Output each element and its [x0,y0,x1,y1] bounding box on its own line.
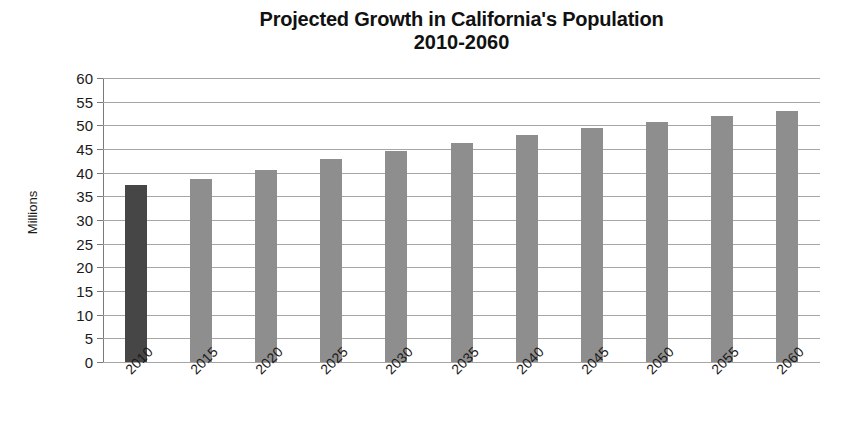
y-tick-label-55: 55 [53,95,93,110]
chart-title-block: Projected Growth in California's Populat… [103,8,820,54]
y-tick-label-60: 60 [53,71,93,86]
y-tick-label-5: 5 [53,331,93,346]
y-tick-label-20: 20 [53,260,93,275]
bar-2020[interactable] [255,170,277,362]
bar-2055[interactable] [711,116,733,362]
bar-2060[interactable] [776,111,798,362]
plot-area [103,78,820,362]
y-tick-label-25: 25 [53,237,93,252]
bar-2040[interactable] [516,135,538,362]
chart-title: Projected Growth in California's Populat… [103,8,820,31]
y-tick-label-50: 50 [53,118,93,133]
y-tick-label-45: 45 [53,142,93,157]
bar-2030[interactable] [385,151,407,362]
bar-2035[interactable] [451,143,473,362]
y-tick-label-30: 30 [53,213,93,228]
bar-chart-figure: Projected Growth in California's Populat… [0,0,865,432]
bar-2050[interactable] [646,122,668,362]
gridline-60 [103,78,820,79]
y-axis-title: Millions [25,178,40,248]
chart-subtitle: 2010-2060 [103,31,820,54]
y-tick-label-10: 10 [53,308,93,323]
y-axis-tick-labels: 605550454035302520151050 [48,78,93,362]
y-tick-label-0: 0 [53,355,93,370]
bar-2025[interactable] [320,159,342,362]
bar-2015[interactable] [190,179,212,362]
x-axis-tick-labels: 2010201520202025203020352040204520502055… [103,366,820,426]
y-tick-label-35: 35 [53,189,93,204]
bar-2045[interactable] [581,128,603,362]
gridline-55 [103,102,820,103]
bar-2010[interactable] [125,185,147,362]
y-tick-label-15: 15 [53,284,93,299]
y-tick-label-40: 40 [53,166,93,181]
